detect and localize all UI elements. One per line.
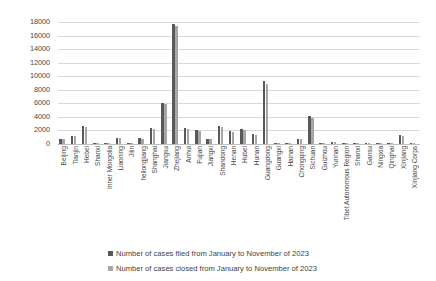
x-axis-tick-label: Guangxi [275,146,282,170]
bar-group [330,22,341,144]
x-axis-tick-label: Beijing [60,146,67,165]
x-axis-tick-label: Sichuan [309,146,316,169]
bar-group [250,22,261,144]
bar-group [239,22,250,144]
x-axis-tick-label: Shandong [219,146,226,176]
legend-swatch-icon [108,266,113,271]
x-axis-tick-label: Jiangxi [207,146,214,166]
bar-closed [243,130,246,145]
gridline-0 [58,144,420,145]
bar-closed [198,131,201,144]
bar-group [363,22,374,144]
bar-group [216,22,227,144]
bar-closed [334,142,337,144]
bar-closed [322,143,325,144]
bar-chart: 1800016000140001200010000800060004000200… [0,0,436,281]
bar-closed [119,138,122,144]
bar-closed [153,129,156,144]
y-axis-tick-label: 8000 [34,86,50,94]
legend-item[interactable]: Number of cases closed from January to N… [0,261,436,276]
legend-item-label: Number of cases closed from January to N… [116,264,317,273]
x-axis-tick-label: Inner Mongolia [106,146,113,189]
x-axis-tick-label: Tianjin [72,146,79,165]
bar-group [182,22,193,144]
bar-closed [288,143,291,144]
y-axis-tick-label: 12000 [30,59,50,67]
x-axis-tick-label: Henan [230,146,237,165]
x-axis-tick-label: Anhui [185,146,192,163]
x-axis-tick-label: Guangdong [264,146,271,180]
bar-group [318,22,329,144]
bar-closed [402,136,405,144]
y-axis-tick-label: 14000 [30,45,50,53]
bar-group [409,22,420,144]
x-axis: BeijingTianjinHebeiShanxiInner MongoliaL… [58,146,420,236]
bar-closed [368,143,371,144]
bar-group [103,22,114,144]
bar-group [375,22,386,144]
x-axis-tick-label: Yunnan [332,146,339,168]
x-axis-tick-label: Tibet Autonomous Region [343,146,350,220]
bar-closed [255,135,258,144]
bar-closed [187,129,190,144]
bar-closed [390,143,393,144]
legend-item-label: Number of cases filed from January to No… [116,249,309,258]
bar-group [160,22,171,144]
bar-group [228,22,239,144]
x-axis-tick-label: Fujian [196,146,203,164]
x-axis-tick-label: Hainan [287,146,294,167]
x-axis-tick-label: Qinghai [388,146,395,168]
bar-group [69,22,80,144]
bar-group [205,22,216,144]
y-axis-tick-label: 2000 [34,126,50,134]
y-axis-tick-label: 4000 [34,113,50,121]
x-axis-tick-label: Hubei [241,146,248,163]
bar-group [341,22,352,144]
bar-closed [62,139,65,144]
legend-item[interactable]: Number of cases filed from January to No… [0,246,436,261]
chart-legend: Number of cases filed from January to No… [0,246,436,276]
bar-closed [413,143,416,144]
x-axis-tick-label: Zhejiang [173,146,180,171]
bar-group [149,22,160,144]
bar-closed [96,143,99,144]
x-axis-tick-label: Xinjiang [400,146,407,169]
bar-closed [379,143,382,144]
x-axis-tick-label: Liaoning [117,146,124,171]
x-axis-tick-label: Jiangsu [162,146,169,168]
x-axis-tick-label: Hunan [253,146,260,165]
bar-closed [311,118,314,144]
x-axis-tick-label: Shanxi [94,146,101,166]
bars-layer [58,22,420,144]
x-axis-tick-label: Jilin [128,146,135,157]
bar-group [171,22,182,144]
bar-group [307,22,318,144]
x-axis-tick-label: heilongjiang [140,146,147,181]
bar-closed [356,143,359,144]
y-axis: 1800016000140001200010000800060004000200… [0,22,54,144]
bar-group [262,22,273,144]
bar-closed [107,143,110,144]
bar-group [58,22,69,144]
bar-closed [232,132,235,144]
y-axis-tick-label: 18000 [30,18,50,26]
x-axis-tick-label: Chongqing [298,146,305,177]
bar-closed [164,104,167,144]
bar-group [81,22,92,144]
x-axis-tick-label: Hebei [83,146,90,163]
bar-group [296,22,307,144]
bar-group [397,22,408,144]
y-axis-tick-label: 10000 [30,72,50,80]
legend-swatch-icon [108,251,113,256]
bar-closed [277,143,280,144]
bar-closed [345,143,348,144]
bar-group [126,22,137,144]
bar-closed [130,143,133,144]
bar-closed [300,139,303,144]
bar-closed [74,136,77,144]
bar-group [284,22,295,144]
bar-group [137,22,148,144]
x-axis-tick-label: Gansu [366,146,373,165]
bar-group [352,22,363,144]
x-axis-tick-label: Xinjiang Corps [411,146,418,188]
